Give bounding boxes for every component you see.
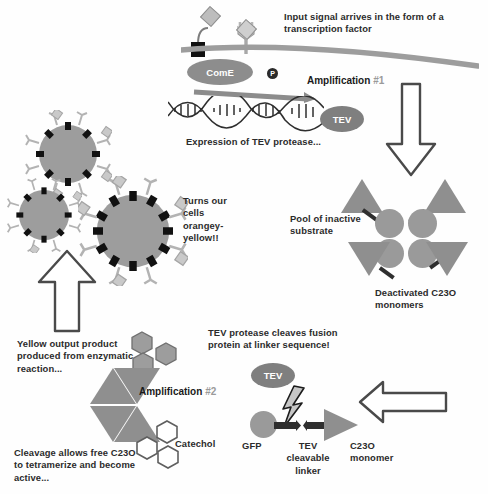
- tev-top-label: TEV: [333, 114, 351, 125]
- expression-label: Expression of TEV protease...: [186, 136, 366, 148]
- gfp-circle: [250, 411, 277, 438]
- amplification-2-label: Amplification #2: [139, 386, 216, 397]
- come-protein: ComE: [187, 59, 253, 85]
- tev-cleaves-label: TEV protease cleaves fusion protein at l…: [208, 327, 360, 352]
- come-label: ComE: [206, 67, 233, 78]
- c23o-monomer-triangle: [322, 406, 360, 444]
- diagram-canvas: ComE P Input signal arrives in the form …: [0, 0, 488, 494]
- down-arrow-icon: [383, 82, 439, 178]
- amplification-2-number: #2: [205, 386, 216, 397]
- amplification-2-text: Amplification: [139, 386, 202, 397]
- amplification-1-text: Amplification: [307, 75, 370, 86]
- turns-cells-label: Turns our cells orangey-yellow!!: [183, 195, 243, 245]
- up-arrow-icon: [33, 248, 101, 334]
- gfp-label: GFP: [242, 440, 278, 452]
- c23o-triangle: [426, 242, 468, 276]
- phosphate-label: P: [270, 70, 275, 77]
- gfp-circle: [408, 209, 437, 238]
- tev-bottom-label: TEV: [264, 370, 282, 381]
- pool-inactive-label: Pool of inactive substrate: [290, 213, 372, 238]
- deactivated-monomers-label: Deactivated C23O monomers: [375, 287, 481, 312]
- gfp-circle: [375, 209, 404, 238]
- input-signal-label: Input signal arrives in the form of a tr…: [284, 11, 474, 36]
- cell-with-receptors: [6, 177, 82, 253]
- left-arrow-icon: [357, 378, 449, 426]
- tev-cleavable-linker-label: TEV cleavable linker: [283, 440, 333, 477]
- c23o-triangle: [348, 242, 390, 276]
- c23o-monomer-label: C23O monomer: [350, 440, 410, 465]
- catechol-hexagon: [155, 342, 177, 366]
- catechol-hexagon-outline: [136, 436, 158, 460]
- dna-helix-icon: [168, 96, 324, 134]
- phosphate-icon: P: [267, 68, 278, 79]
- amplification-1-label: Amplification #1: [307, 75, 384, 86]
- catechol-label: Catechol: [175, 438, 235, 450]
- c23o-triangle: [341, 179, 383, 213]
- cleavage-label: Cleavage allows free C23O to tetramerize…: [14, 447, 138, 484]
- tev-protease-top: TEV: [320, 106, 364, 132]
- c23o-triangle: [424, 179, 466, 213]
